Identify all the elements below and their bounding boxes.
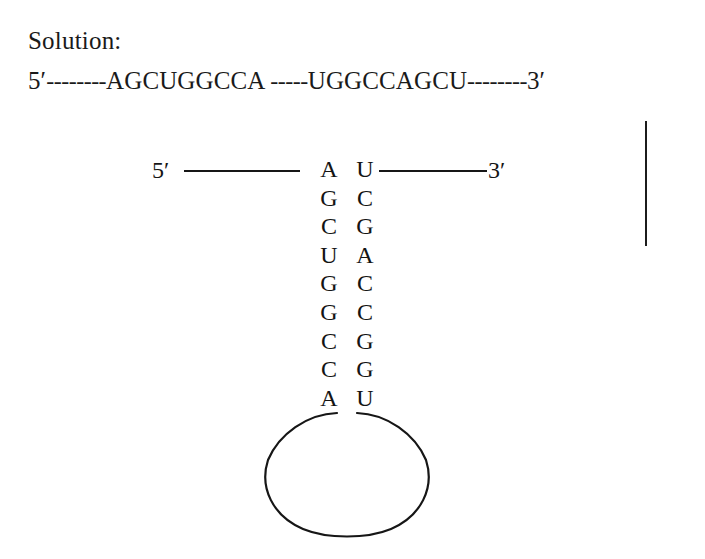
sequence-segment-right: UGGCCAGCU [308, 67, 467, 94]
base-pair-row: A U [300, 157, 410, 186]
base-pair-ladder: A U G C C G U A G C G C C G C G [300, 157, 410, 414]
base-right: G [354, 214, 376, 238]
base-pair-row: C G [300, 357, 410, 386]
base-right: C [354, 271, 376, 295]
base-right: U [354, 157, 376, 181]
base-left: U [318, 243, 340, 267]
base-pair-row: G C [300, 271, 410, 300]
base-left: G [318, 186, 340, 210]
base-left: A [318, 157, 340, 181]
solution-heading: Solution: [28, 26, 122, 56]
hairpin-loop-shape [263, 408, 431, 538]
base-right: C [354, 186, 376, 210]
base-pair-row: C G [300, 214, 410, 243]
margin-rule-line [645, 121, 647, 246]
three-prime-strand-line [379, 170, 487, 172]
hairpin-three-prime-label: 3′ [488, 158, 505, 182]
sequence-three-prime: 3′ [527, 67, 545, 94]
base-pair-row: U A [300, 243, 410, 272]
base-left: A [318, 386, 340, 410]
hairpin-five-prime-label: 5′ [152, 158, 169, 182]
sequence-segment-left: AGCUGGCCA [106, 67, 264, 94]
loop-outline-path [265, 413, 428, 537]
base-left: C [318, 329, 340, 353]
base-left: G [318, 271, 340, 295]
base-left: C [318, 357, 340, 381]
base-right: C [354, 300, 376, 324]
sequence-dashes-middle: ----- [270, 68, 307, 94]
base-right: U [354, 386, 376, 410]
base-right: G [354, 329, 376, 353]
linear-sequence-line: 5′--------AGCUGGCCA -----UGGCCAGCU------… [28, 66, 545, 96]
five-prime-strand-line [184, 170, 300, 172]
base-left: G [318, 300, 340, 324]
base-right: A [354, 243, 376, 267]
base-right: G [354, 357, 376, 381]
sequence-five-prime: 5′ [28, 67, 46, 94]
base-pair-row: G C [300, 300, 410, 329]
sequence-dashes-left: -------- [46, 68, 106, 94]
base-pair-row: C G [300, 329, 410, 358]
base-pair-row: A U [300, 386, 410, 415]
base-pair-row: G C [300, 186, 410, 215]
sequence-dashes-right: -------- [467, 68, 527, 94]
base-left: C [318, 214, 340, 238]
